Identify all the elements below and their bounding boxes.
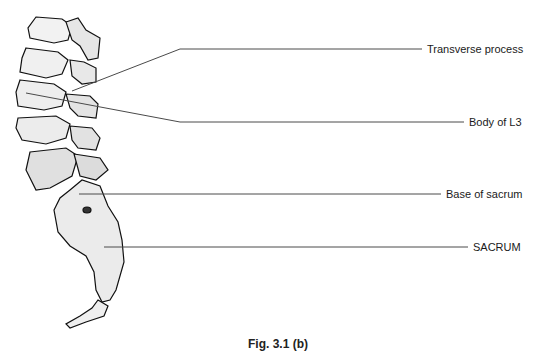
label-base-of-sacrum: Base of sacrum [446, 188, 522, 200]
label-sacrum: SACRUM [473, 241, 521, 253]
figure-caption: Fig. 3.1 (b) [248, 337, 308, 351]
label-transverse-process: Transverse process [427, 43, 523, 55]
leader-line-transverse-process [72, 49, 422, 91]
vertebrae-drawing [16, 17, 124, 328]
label-body-of-l3: Body of L3 [469, 116, 522, 128]
